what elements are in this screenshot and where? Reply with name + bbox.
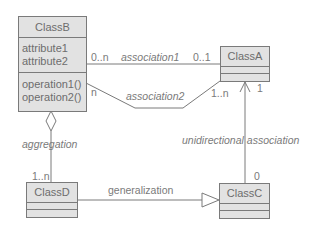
class-c-name: ClassC [220,184,269,203]
class-b-name: ClassB [19,17,86,37]
class-c-attributes [220,203,269,210]
class-d-name: ClassD [27,183,77,202]
class-c-operations [220,210,269,218]
class-c[interactable]: ClassC [219,183,270,219]
generalization-label: generalization [108,184,173,196]
operation: operation2() [22,91,86,104]
class-b-attributes: attribute1 attribute2 [19,37,86,72]
generalization-triangle-icon [202,193,219,207]
class-d[interactable]: ClassD [26,182,78,218]
unidirectional-source-multiplicity: 0 [254,170,260,182]
class-d-operations [27,209,77,217]
class-a-operations [221,73,269,81]
class-a-name: ClassA [221,47,269,66]
aggregation-diamond-icon [46,111,56,131]
association1-label: association1 [121,51,179,63]
association2-source-multiplicity: n [91,86,97,98]
aggregation-label: aggregation [22,138,77,150]
association2-label: association2 [126,90,184,102]
class-a[interactable]: ClassA [220,46,270,82]
class-a-attributes [221,66,269,73]
unidirectional-target-multiplicity: 1 [257,82,263,94]
class-b[interactable]: ClassB attribute1 attribute2 operation1(… [18,16,87,112]
class-b-operations: operation1() operation2() [19,72,86,111]
aggregation-target-multiplicity: 1..n [32,170,50,182]
operation: operation1() [22,78,86,91]
association2-target-multiplicity: 1..n [211,87,229,99]
class-d-attributes [27,202,77,209]
attribute: attribute1 [22,42,86,55]
attribute: attribute2 [22,55,86,68]
association1-target-multiplicity: 0..1 [193,51,211,63]
association1-source-multiplicity: 0..n [91,51,109,63]
unidirectional-label: unidirectional association [182,134,299,146]
